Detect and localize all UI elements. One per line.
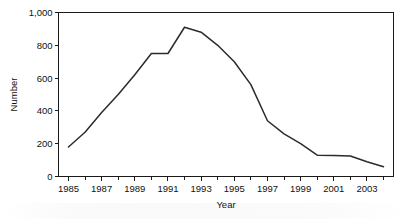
x-tick-label-1991: 1991: [157, 183, 178, 194]
plot-frame: [59, 13, 394, 177]
x-tick-label-1993: 1993: [191, 183, 212, 194]
line-chart: 02004006008001,0001985198719891991199319…: [0, 0, 409, 219]
y-tick-label-0: 0: [47, 171, 52, 182]
y-tick-label-1000: 1,000: [29, 7, 53, 18]
x-tick-label-1995: 1995: [224, 183, 245, 194]
x-tick-label-1987: 1987: [91, 183, 112, 194]
chart-figure: 02004006008001,0001985198719891991199319…: [0, 0, 409, 219]
x-tick-label-1985: 1985: [58, 183, 79, 194]
y-tick-label-200: 200: [37, 138, 53, 149]
y-tick-label-800: 800: [37, 40, 53, 51]
x-tick-label-1997: 1997: [257, 183, 278, 194]
x-axis-title: Year: [216, 199, 235, 210]
data-series-number: [68, 27, 383, 166]
x-tick-label-1999: 1999: [290, 183, 311, 194]
y-tick-label-600: 600: [37, 73, 53, 84]
y-axis-title: Number: [8, 78, 19, 112]
x-tick-label-2003: 2003: [356, 183, 377, 194]
x-tick-label-2001: 2001: [323, 183, 344, 194]
y-tick-label-400: 400: [37, 105, 53, 116]
x-tick-label-1989: 1989: [124, 183, 145, 194]
